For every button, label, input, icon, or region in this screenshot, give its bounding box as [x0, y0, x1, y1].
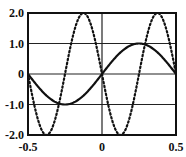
y-tick-label: -1.0 [5, 98, 24, 112]
y-axis-ticks: 2.01.00-1.0-2.0 [5, 6, 24, 142]
x-axis-ticks: -0.500.5 [19, 140, 184, 154]
x-tick-label: -0.5 [19, 140, 38, 154]
y-tick-label: 2.0 [9, 6, 24, 20]
chart: 2.01.00-1.0-2.0 -0.500.5 [0, 0, 186, 157]
x-tick-label: 0 [99, 140, 105, 154]
y-tick-label: 1.0 [9, 37, 24, 51]
x-tick-label: 0.5 [169, 140, 184, 154]
y-tick-label: 0 [18, 67, 24, 81]
